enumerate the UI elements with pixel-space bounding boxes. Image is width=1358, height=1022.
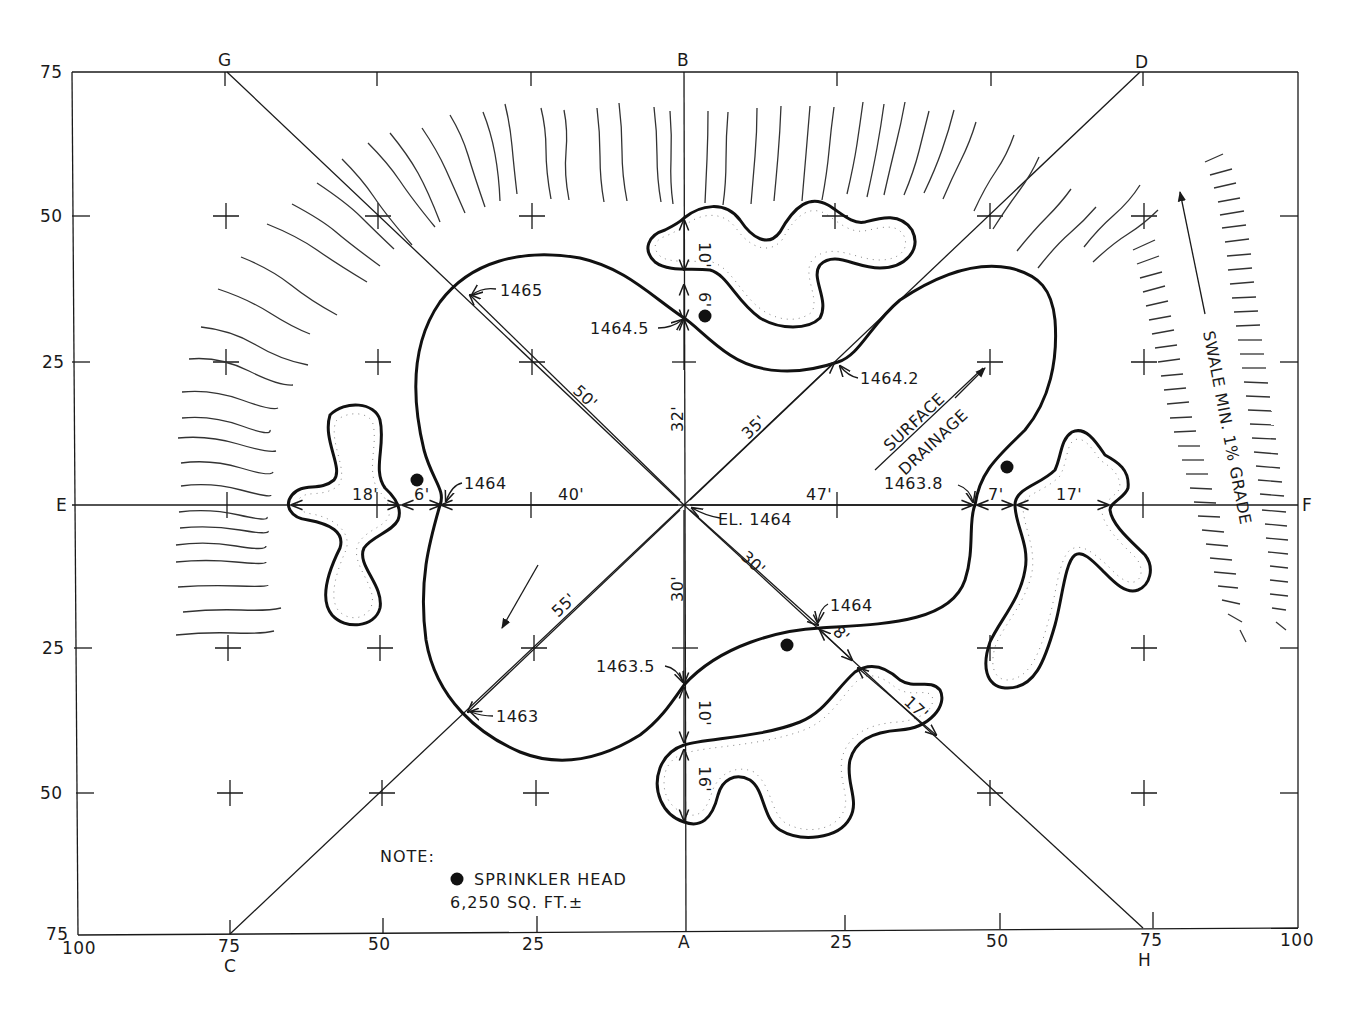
dimension-label: 6' xyxy=(695,292,714,308)
elevation-label: 1465 xyxy=(500,281,543,300)
right-axis-label: F xyxy=(1302,495,1312,515)
dimension-label: 32' xyxy=(668,406,687,432)
dimension-label: 10' xyxy=(695,700,714,726)
bottom-tick-label: 75 xyxy=(1140,930,1163,950)
elevation-label: 1463.8 xyxy=(884,474,943,493)
sprinkler-heads xyxy=(411,310,1014,886)
swale-grade-label: SWALE MIN. 1% GRADE xyxy=(1199,329,1255,526)
dimension-label: 47' xyxy=(806,485,832,504)
left-tick-label: 25 xyxy=(42,352,65,372)
note-area: 6,250 SQ. FT.± xyxy=(450,893,583,912)
bunker-bottom xyxy=(657,666,942,837)
left-tick-label: 75 xyxy=(40,62,63,82)
corner-letter-h: H xyxy=(1138,950,1151,970)
note-sprinkler-legend: SPRINKLER HEAD xyxy=(474,870,627,889)
left-tick-label: 50 xyxy=(40,206,63,226)
sprinkler-head-icon xyxy=(1001,461,1014,474)
dimension-label: 10' xyxy=(695,242,714,268)
dimension-label: 6' xyxy=(414,485,430,504)
bottom-tick-label: 25 xyxy=(830,932,853,952)
dimension-label: 30' xyxy=(737,547,769,579)
dimension-label: 18' xyxy=(352,485,378,504)
corner-letter-d: D xyxy=(1135,52,1149,72)
swale-hachures xyxy=(1133,154,1288,642)
green-outline xyxy=(416,255,1056,760)
elevation-label: 1464.2 xyxy=(860,369,919,388)
sprinkler-head-icon xyxy=(699,310,712,323)
elevation-label: 1464.5 xyxy=(590,319,649,338)
grading-plan-drawing: 75 50 25 E 25 50 75 F 100 75 50 25 A 25 … xyxy=(0,0,1358,1022)
left-tick-label: 50 xyxy=(40,783,63,803)
dimension-label: 17' xyxy=(1056,485,1082,504)
dimension-label: 55' xyxy=(548,589,580,621)
slope-hachures xyxy=(176,102,1158,635)
bottom-tick-label: 100 xyxy=(62,938,96,958)
elevation-leaders xyxy=(446,289,973,716)
sprinkler-head-icon xyxy=(451,873,464,886)
left-tick-label: E xyxy=(56,495,67,515)
bottom-tick-label: 25 xyxy=(522,934,545,954)
corner-letter-b: B xyxy=(677,50,689,70)
dimension-label: 40' xyxy=(558,485,584,504)
elevation-label: 1463.5 xyxy=(596,657,655,676)
left-tick-label: 25 xyxy=(42,638,65,658)
sprinkler-head-icon xyxy=(781,639,794,652)
dimension-label: 35' xyxy=(738,411,770,443)
bunker-top xyxy=(648,201,915,327)
bottom-tick-label: 50 xyxy=(986,931,1009,951)
bottom-tick-label: 50 xyxy=(368,934,391,954)
note-block: NOTE: SPRINKLER HEAD 6,250 SQ. FT.± xyxy=(380,847,627,912)
corner-letter-c: C xyxy=(224,956,236,976)
dimension-label: 30' xyxy=(668,576,687,602)
bunker-left xyxy=(289,405,400,625)
bottom-tick-label: 100 xyxy=(1280,930,1314,950)
elevation-label: EL. 1464 xyxy=(718,510,792,529)
dimension-label: 7' xyxy=(988,485,1004,504)
elevation-label: 1463 xyxy=(496,707,539,726)
swale-direction-arrow xyxy=(1180,192,1205,314)
dimension-label: 16' xyxy=(695,766,714,792)
elevation-labels: 1465 1464.5 1464.2 1464 1463.8 EL. 1464 … xyxy=(464,281,943,726)
bottom-tick-label: 75 xyxy=(218,936,241,956)
corner-letter-g: G xyxy=(218,50,232,70)
dimension-label: 50' xyxy=(569,381,601,413)
elevation-label: 1464 xyxy=(830,596,873,615)
bottom-tick-label: A xyxy=(678,932,690,952)
elevation-label: 1464 xyxy=(464,474,507,493)
note-heading: NOTE: xyxy=(380,847,435,866)
